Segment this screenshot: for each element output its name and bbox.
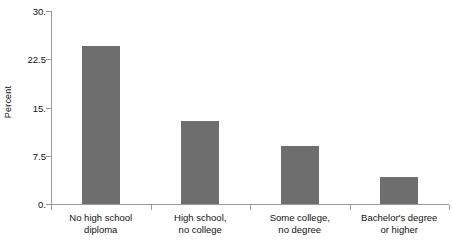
bar xyxy=(82,46,120,204)
x-axis-category-label-line: or higher xyxy=(350,224,450,236)
bar xyxy=(281,146,319,204)
y-axis-tick-mark xyxy=(46,59,51,60)
y-axis-tick-label: 7.5 xyxy=(16,150,46,161)
plot-area xyxy=(51,11,449,204)
y-axis-tick-mark xyxy=(46,11,51,12)
x-axis-tick-mark xyxy=(250,205,251,210)
y-axis-tick-label: 30. xyxy=(16,6,46,17)
x-axis-category-label-line: High school, xyxy=(151,212,251,224)
x-axis-category-label-line: no degree xyxy=(250,224,350,236)
x-axis-tick-mark xyxy=(151,205,152,210)
x-axis-category-label-line: no college xyxy=(151,224,251,236)
x-axis-tick-mark xyxy=(350,205,351,210)
x-axis-category-label: Some college,no degree xyxy=(250,212,350,235)
bar xyxy=(181,121,219,204)
x-axis-tick-mark xyxy=(51,205,52,210)
bar xyxy=(380,177,418,204)
x-axis-category-label-line: diploma xyxy=(51,224,151,236)
x-axis-tick-mark xyxy=(449,205,450,210)
y-axis-tick-mark xyxy=(46,156,51,157)
y-axis-tick-label: 22.5 xyxy=(16,54,46,65)
x-axis-category-label-line: Some college, xyxy=(250,212,350,224)
y-axis-tick-mark xyxy=(46,108,51,109)
y-axis-tick-label: 15. xyxy=(16,102,46,113)
y-axis-tick-label: 0. xyxy=(16,199,46,210)
bar-chart: Percent 0.7.515.22.530. No high schooldi… xyxy=(0,0,452,244)
y-axis-tick-labels: 0.7.515.22.530. xyxy=(14,0,46,244)
x-axis-category-label-line: Bachelor's degree xyxy=(350,212,450,224)
y-axis-title-text: Percent xyxy=(3,86,13,118)
x-axis-category-label: No high schooldiploma xyxy=(51,212,151,235)
x-axis-category-label: Bachelor's degreeor higher xyxy=(350,212,450,235)
x-axis-category-label: High school,no college xyxy=(151,212,251,235)
x-axis-category-label-line: No high school xyxy=(51,212,151,224)
